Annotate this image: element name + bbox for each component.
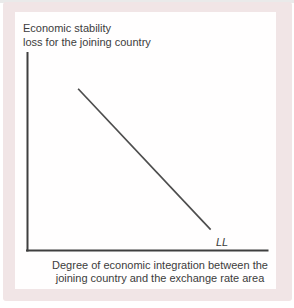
x-axis-label: Degree of economic integration between t… <box>45 259 275 285</box>
plot-panel: Economic stability loss for the joining … <box>15 12 276 289</box>
ll-curve-label: LL <box>216 236 228 248</box>
figure-frame: Economic stability loss for the joining … <box>3 2 292 301</box>
figure-page: { "figure": { "ylabel_line1": "Economic … <box>0 0 294 308</box>
plot-canvas <box>15 12 276 289</box>
x-axis-label-line2: joining country and the exchange rate ar… <box>45 272 275 285</box>
x-axis-label-line1: Degree of economic integration between t… <box>45 259 275 272</box>
ll-curve <box>78 89 211 230</box>
